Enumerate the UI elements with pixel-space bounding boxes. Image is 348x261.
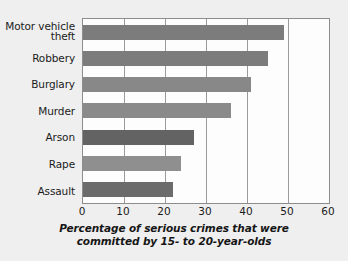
bar-burglary (83, 77, 251, 92)
bar-row (83, 150, 329, 176)
category-label-rape: Rape (49, 159, 75, 170)
bar-row (83, 177, 329, 203)
category-row: Arson (0, 124, 79, 151)
bar-assault (83, 182, 173, 197)
bar-murder (83, 103, 231, 118)
plot-area (82, 18, 330, 204)
bar-row (83, 45, 329, 71)
category-label-robbery: Robbery (32, 53, 75, 64)
bar-row (83, 72, 329, 98)
value-axis: 0102030405060 (82, 205, 330, 221)
x-tick-label-10: 10 (116, 205, 129, 218)
category-row: Robbery (0, 45, 79, 72)
category-row: Burglary (0, 71, 79, 98)
bar-rape (83, 156, 181, 171)
x-tick-label-30: 30 (198, 205, 211, 218)
category-label-motor-vehicle-theft: Motor vehicle theft (5, 21, 75, 42)
category-row: Motor vehicle theft (0, 18, 79, 45)
category-axis: Motor vehicle theft Robbery Burglary Mur… (0, 18, 79, 204)
x-tick-label-40: 40 (239, 205, 252, 218)
x-tick-label-20: 20 (157, 205, 170, 218)
x-axis-caption-line-2: committed by 15- to 20-year-olds (40, 235, 308, 248)
category-row: Murder (0, 98, 79, 125)
category-label-murder: Murder (38, 106, 75, 117)
x-tick-label-60: 60 (321, 205, 334, 218)
category-row: Assault (0, 177, 79, 204)
category-label-burglary: Burglary (31, 79, 75, 90)
bar-row (83, 98, 329, 124)
bar-motor-vehicle-theft (83, 25, 284, 40)
bar-arson (83, 130, 194, 145)
category-label-arson: Arson (45, 132, 75, 143)
bars-layer (83, 19, 329, 203)
category-label-assault: Assault (37, 186, 75, 197)
bar-row (83, 19, 329, 45)
x-tick-label-50: 50 (280, 205, 293, 218)
x-axis-caption: Percentage of serious crimes that were c… (40, 222, 308, 247)
category-row: Rape (0, 151, 79, 178)
x-axis-caption-line-1: Percentage of serious crimes that were (40, 222, 308, 235)
bar-chart-figure: Motor vehicle theft Robbery Burglary Mur… (0, 0, 348, 261)
bar-row (83, 124, 329, 150)
x-tick-label-0: 0 (79, 205, 86, 218)
bar-robbery (83, 51, 268, 66)
